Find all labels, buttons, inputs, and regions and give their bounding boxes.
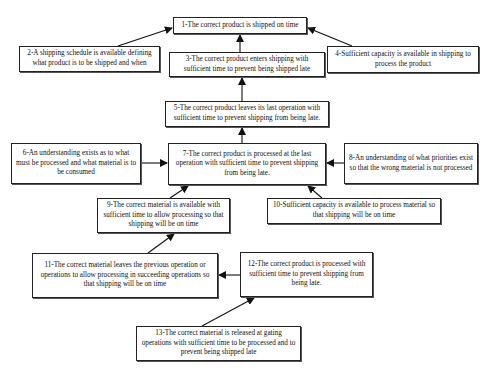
node-8: 8-An understanding of what priorities ex… — [344, 143, 478, 184]
node-label: 11-The correct material leaves the previ… — [37, 261, 213, 290]
node-label: 6-An understanding exists as to what mus… — [16, 149, 136, 178]
node-11: 11-The correct material leaves the previ… — [32, 253, 218, 298]
node-label: 13-The correct material is released at g… — [141, 329, 296, 358]
node-label: 3-The correct product enters shipping wi… — [174, 55, 320, 74]
node-label: 4-Sufficient capacity is available in sh… — [332, 50, 474, 69]
arrow-9-to-7 — [170, 186, 188, 198]
node-5: 5-The correct product leaves its last op… — [165, 101, 329, 127]
node-13: 13-The correct material is released at g… — [136, 326, 301, 361]
arrow-2-to-1 — [118, 28, 172, 46]
node-9: 9-The correct material is available with… — [97, 198, 230, 233]
node-label: 8-An understanding of what priorities ex… — [349, 154, 473, 173]
node-label: 7-The correct product is processed at th… — [173, 150, 321, 179]
arrow-13-to-12 — [202, 298, 254, 326]
node-label: 12-The correct product is processed with… — [245, 260, 368, 289]
node-10: 10-Sufficient capacity is available to p… — [267, 198, 441, 224]
node-12: 12-The correct product is processed with… — [240, 252, 373, 297]
node-label: 10-Sufficient capacity is available to p… — [272, 201, 436, 220]
node-6: 6-An understanding exists as to what mus… — [11, 143, 141, 184]
arrow-10-to-7 — [308, 186, 322, 198]
arrow-4-to-1 — [308, 28, 352, 46]
node-label: 1-The correct product is shipped on time — [182, 21, 299, 31]
node-label: 2-A shipping schedule is available defin… — [24, 49, 155, 68]
node-label: 5-The correct product leaves its last op… — [170, 104, 324, 123]
node-2: 2-A shipping schedule is available defin… — [19, 46, 160, 72]
prerequisite-tree-diagram: 1-The correct product is shipped on time… — [0, 0, 494, 376]
node-4: 4-Sufficient capacity is available in sh… — [327, 46, 479, 73]
arrow-11-to-9 — [148, 234, 174, 253]
node-3: 3-The correct product enters shipping wi… — [169, 52, 325, 77]
node-label: 9-The correct material is available with… — [102, 201, 225, 230]
node-7: 7-The correct product is processed at th… — [168, 143, 326, 185]
node-1: 1-The correct product is shipped on time — [173, 17, 307, 34]
